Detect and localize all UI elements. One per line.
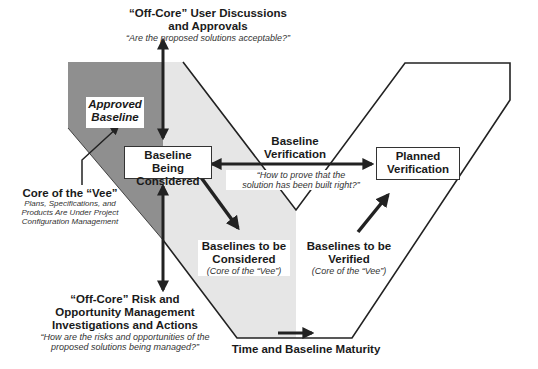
bottom-line2: Opportunity Management bbox=[36, 306, 214, 319]
baseline-verification-label: Baseline Verification bbox=[250, 135, 340, 161]
verified-arrow bbox=[358, 195, 388, 232]
baseline-verification-question: “How to prove that the solution has been… bbox=[226, 170, 376, 190]
btbv-note: (Core of the “Vee”) bbox=[303, 266, 395, 276]
pv-line1: Planned bbox=[381, 150, 455, 163]
bottom-line1: “Off-Core” Risk and bbox=[36, 293, 214, 306]
bottom-question-line1: “How are the risks and opportunities of … bbox=[36, 332, 214, 342]
btbc-line2: Considered bbox=[198, 253, 290, 266]
bv-line1: Baseline bbox=[250, 135, 340, 148]
top-question: “Are the proposed solutions acceptable?” bbox=[88, 33, 328, 43]
top-off-core-label: “Off-Core” User Discussions and Approval… bbox=[88, 7, 328, 43]
bv-question-line1: “How to prove that the bbox=[226, 170, 376, 180]
bottom-question-line2: proposed solutions being managed?” bbox=[36, 342, 214, 352]
btbv-line2: Verified bbox=[303, 253, 395, 266]
bottom-line3: Investigations and Actions bbox=[36, 319, 214, 332]
core-of-vee-label: Core of the “Vee” Plans, Specifications,… bbox=[0, 187, 140, 227]
bv-question-line2: solution has been built right?” bbox=[226, 180, 376, 190]
baseline-being-considered-box: Baseline Being Considered bbox=[124, 146, 212, 179]
planned-verification-box: Planned Verification bbox=[376, 147, 460, 180]
approved-baseline-line2: Baseline bbox=[86, 111, 144, 124]
pv-line2: Verification bbox=[381, 163, 455, 176]
approved-baseline-label: Approved Baseline bbox=[86, 97, 144, 128]
baselines-considered-label: Baselines to be Considered (Core of the … bbox=[198, 240, 290, 276]
bbc-line1: Baseline Being bbox=[129, 149, 207, 175]
top-title-line2: and Approvals bbox=[88, 20, 328, 33]
bbc-line2: Considered bbox=[129, 175, 207, 188]
top-title-line1: “Off-Core” User Discussions bbox=[88, 7, 328, 20]
time-axis-label: Time and Baseline Maturity bbox=[226, 343, 386, 356]
bottom-off-core-label: “Off-Core” Risk and Opportunity Manageme… bbox=[36, 293, 214, 352]
baselines-verified-label: Baselines to be Verified (Core of the “V… bbox=[303, 240, 395, 276]
bv-line2: Verification bbox=[250, 148, 340, 161]
approved-baseline-line1: Approved bbox=[86, 98, 144, 111]
btbc-note: (Core of the “Vee”) bbox=[198, 266, 290, 276]
btbc-line1: Baselines to be bbox=[198, 240, 290, 253]
core-title: Core of the “Vee” bbox=[0, 187, 140, 200]
core-line3: Configuration Management bbox=[0, 218, 140, 227]
btbv-line1: Baselines to be bbox=[303, 240, 395, 253]
